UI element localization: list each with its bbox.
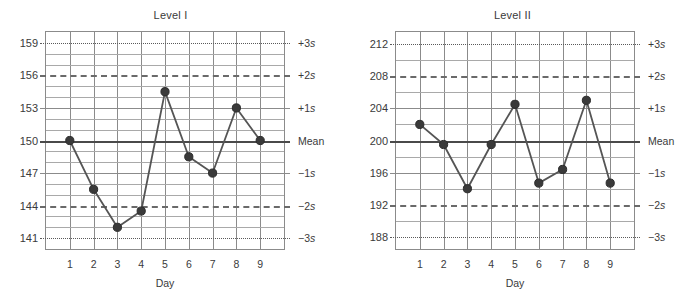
data-point-level-2-day-8[interactable] xyxy=(582,96,590,104)
x-axis-day-label-level-1-4: 4 xyxy=(138,258,144,270)
data-point-level-1-day-9[interactable] xyxy=(256,136,264,144)
x-axis-day-label-level-2-5: 5 xyxy=(512,258,518,270)
x-axis-day-label-level-1-8: 8 xyxy=(233,258,239,270)
y-axis-tick-label-level-2-5: 192 xyxy=(370,199,388,211)
y-axis-tick-label-level-1-0: 159 xyxy=(20,37,38,49)
sigma-label-level-1-2: +1s xyxy=(298,102,315,114)
x-axis-day-label-level-2-7: 7 xyxy=(560,258,566,270)
data-point-level-1-day-6[interactable] xyxy=(185,153,193,161)
data-series-level-1 xyxy=(46,32,284,249)
sigma-label-level-1-1: +2s xyxy=(298,69,315,81)
sigma-label-level-2-0: +3s xyxy=(648,38,665,50)
y-axis-tick-label-level-1-5: 144 xyxy=(20,200,38,212)
chart-panel-level-1: Level I +3s+2s+1sMean−1s−2s−3s1591561531… xyxy=(0,0,341,307)
x-axis-day-label-level-1-6: 6 xyxy=(186,258,192,270)
data-point-level-2-day-2[interactable] xyxy=(440,140,448,148)
x-axis-title-level-1: Day xyxy=(46,277,284,289)
x-axis-day-label-level-1-2: 2 xyxy=(91,258,97,270)
sigma-label-level-2-5: −2s xyxy=(648,199,665,211)
x-axis-day-label-level-2-2: 2 xyxy=(441,258,447,270)
sigma-label-level-2-6: −3s xyxy=(648,231,665,243)
sigma-label-level-2-4: −1s xyxy=(648,167,665,179)
data-point-level-1-day-5[interactable] xyxy=(161,88,169,96)
y-axis-tick-label-level-1-1: 156 xyxy=(20,69,38,81)
sigma-label-level-1-0: +3s xyxy=(298,37,315,49)
levey-jennings-figure: Level I +3s+2s+1sMean−1s−2s−3s1591561531… xyxy=(0,0,683,307)
x-axis-title-level-2: Day xyxy=(396,277,634,289)
x-axis-day-label-level-1-9: 9 xyxy=(257,258,263,270)
y-axis-tick-label-level-1-6: 141 xyxy=(20,232,38,244)
data-point-level-2-day-3[interactable] xyxy=(463,185,471,193)
x-axis-day-label-level-2-1: 1 xyxy=(417,258,423,270)
data-point-level-2-day-5[interactable] xyxy=(511,100,519,108)
sigma-label-level-2-2: +1s xyxy=(648,102,665,114)
data-point-level-2-day-7[interactable] xyxy=(559,165,567,173)
chart-panel-level-2: Level II +3s+2s+1sMean−1s−2s−3s212208204… xyxy=(342,0,683,307)
y-axis-tick-label-level-2-6: 188 xyxy=(370,231,388,243)
data-point-level-1-day-2[interactable] xyxy=(90,185,98,193)
y-axis-tick-label-level-2-0: 212 xyxy=(370,38,388,50)
series-line xyxy=(420,100,610,188)
data-point-level-1-day-3[interactable] xyxy=(113,223,121,231)
data-point-level-2-day-6[interactable] xyxy=(535,179,543,187)
data-point-level-1-day-8[interactable] xyxy=(232,104,240,112)
x-axis-day-label-level-2-6: 6 xyxy=(536,258,542,270)
x-axis-day-label-level-1-7: 7 xyxy=(210,258,216,270)
x-axis-day-label-level-1-3: 3 xyxy=(114,258,120,270)
x-axis-day-label-level-1-1: 1 xyxy=(67,258,73,270)
y-axis-tick-label-level-1-4: 147 xyxy=(20,167,38,179)
data-point-level-1-day-1[interactable] xyxy=(66,136,74,144)
sigma-label-level-1-4: −1s xyxy=(298,167,315,179)
y-axis-tick-label-level-2-2: 204 xyxy=(370,102,388,114)
data-series-level-2 xyxy=(396,32,634,249)
sigma-label-level-2-3: Mean xyxy=(648,135,674,147)
data-point-level-1-day-7[interactable] xyxy=(209,169,217,177)
chart-title-level-1: Level I xyxy=(0,9,341,21)
sigma-label-level-1-6: −3s xyxy=(298,232,315,244)
y-axis-tick-label-level-1-3: 150 xyxy=(20,135,38,147)
y-axis-tick-label-level-2-3: 200 xyxy=(370,135,388,147)
data-point-level-1-day-4[interactable] xyxy=(137,207,145,215)
data-point-level-2-day-4[interactable] xyxy=(487,140,495,148)
x-axis-day-label-level-2-9: 9 xyxy=(607,258,613,270)
data-point-level-2-day-1[interactable] xyxy=(416,120,424,128)
y-axis-tick-label-level-1-2: 153 xyxy=(20,102,38,114)
data-point-level-2-day-9[interactable] xyxy=(606,179,614,187)
x-axis-day-label-level-2-3: 3 xyxy=(464,258,470,270)
y-axis-tick-label-level-2-4: 196 xyxy=(370,167,388,179)
sigma-label-level-1-5: −2s xyxy=(298,200,315,212)
x-axis-day-label-level-2-4: 4 xyxy=(488,258,494,270)
x-axis-day-label-level-1-5: 5 xyxy=(162,258,168,270)
sigma-label-level-1-3: Mean xyxy=(298,135,324,147)
plot-area-level-2: +3s+2s+1sMean−1s−2s−3s212208204200196192… xyxy=(395,31,635,250)
x-axis-day-label-level-2-8: 8 xyxy=(583,258,589,270)
chart-title-level-2: Level II xyxy=(342,9,683,21)
plot-area-level-1: +3s+2s+1sMean−1s−2s−3s159156153150147144… xyxy=(45,31,285,250)
y-axis-tick-label-level-2-1: 208 xyxy=(370,70,388,82)
sigma-label-level-2-1: +2s xyxy=(648,70,665,82)
series-line xyxy=(70,92,260,228)
